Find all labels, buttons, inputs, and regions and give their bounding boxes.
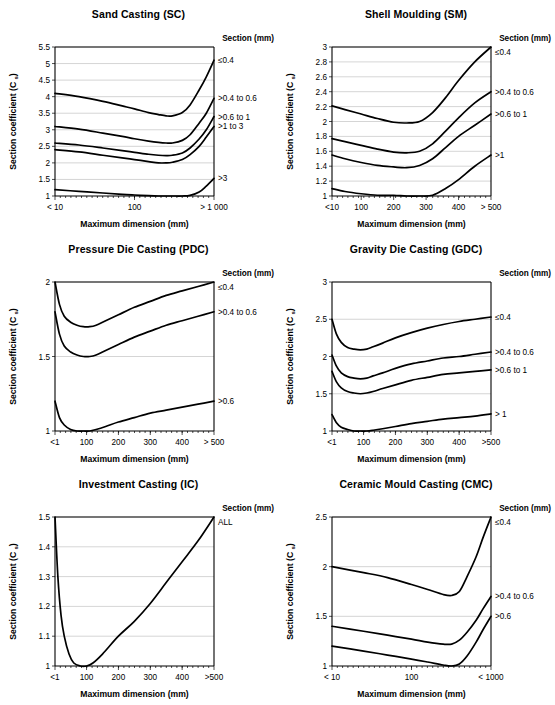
chart-panel-gravity-die-casting: Gravity Die Casting (GDC)11.522.53<11002… [277,235,555,470]
y-axis-title-main: Section coefficient (C [8,314,18,404]
y-axis-title-close: ) [285,73,295,76]
chart-panel-sand-casting: Sand Casting (SC)11.522.533.544.555.5< 1… [0,0,277,235]
y-tick-label: 2.5 [316,315,328,324]
x-tick-label: <10 [325,203,339,212]
y-tick-label: 1.5 [39,175,51,184]
chart-panel-shell-moulding: Shell Moulding (SM)11.21.41.61.822.22.42… [277,0,555,235]
y-axis-title-main: Section coefficient (C [8,549,18,639]
y-tick-label: 5 [45,60,50,69]
curve-gravity-die-casting-series-0 [332,317,491,350]
y-axis-title-main: Section coefficient (C [285,549,295,639]
legend-header: Section (mm) [222,34,274,43]
x-axis-title: Maximum dimension (mm) [80,454,189,464]
legend-label-gravity-die-casting-series-2: >0.6 to 1 [495,366,528,375]
legend-header: Section (mm) [222,504,274,513]
y-tick-label: 1 [45,192,50,201]
x-axis-title: Maximum dimension (mm) [357,454,466,464]
y-tick-label: 2.5 [316,513,328,522]
y-axis-title: Section coefficient (C s) [8,543,19,640]
curve-shell-moulding-series-0 [332,47,491,123]
y-axis-title: Section coefficient (C s) [8,73,19,170]
x-tick-label: 200 [112,673,126,682]
y-tick-label: 1.1 [39,632,51,641]
legend-label-pressure-die-casting-series-0: ≤0.4 [218,283,234,292]
legend-label-ceramic-mould-casting-series-0: ≤0.4 [495,518,511,527]
x-tick-label: 300 [420,438,434,447]
y-axis-title-main: Section coefficient (C [285,314,295,404]
legend-label-sand-casting-series-4: >3 [218,174,228,183]
curve-sand-casting-series-0 [55,60,214,116]
curve-sand-casting-series-2 [55,117,214,156]
x-tick-label: <1 [50,673,60,682]
x-tick-label: 300 [419,203,433,212]
x-tick-label: <1 [50,438,60,447]
x-tick-label: < 1000 [478,673,504,682]
legend-label-gravity-die-casting-series-0: ≤0.4 [495,313,511,322]
y-tick-label: 2 [45,278,50,287]
y-tick-label: 2.6 [316,73,328,82]
y-tick-label: 1.2 [39,602,51,611]
y-tick-label: 1 [45,662,50,671]
x-tick-label: 200 [389,438,403,447]
y-tick-label: 1.5 [39,353,51,362]
y-tick-label: 2 [45,159,50,168]
chart-plot-gravity-die-casting: 11.522.53<1100200300400>500Maximum dimen… [277,235,554,470]
curve-pressure-die-casting-series-1 [55,312,214,357]
legend-label-investment-casting-series-0: ALL [218,518,233,527]
curve-sand-casting-series-4 [55,178,214,196]
chart-plot-ceramic-mould-casting: 11.522.5< 10100< 1000Maximum dimension (… [277,470,554,705]
y-tick-label: 3 [45,126,50,135]
chart-plot-sand-casting: 11.522.533.544.555.5< 10100> 1 000Maximu… [0,0,277,235]
y-tick-label: 1.6 [316,147,328,156]
y-axis-title-close: ) [8,308,18,311]
y-tick-label: 1.8 [316,132,328,141]
legend-label-pressure-die-casting-series-2: >0.6 [218,397,235,406]
legend-label-sand-casting-series-2: >0.6 to 1 [218,113,251,122]
y-tick-label: 1.2 [316,177,328,186]
legend-label-shell-moulding-series-3: >1 [495,151,505,160]
legend-label-shell-moulding-series-1: >0.4 to 0.6 [495,88,534,97]
chart-panel-investment-casting: Investment Casting (IC)11.11.21.31.41.5<… [0,470,277,705]
y-axis-title-main: Section coefficient (C [8,79,18,169]
y-tick-label: 3.5 [39,109,51,118]
x-tick-label: 100 [354,203,368,212]
x-tick-label: 400 [452,203,466,212]
x-tick-label: < 10 [47,203,64,212]
y-tick-label: 1 [322,192,327,201]
y-tick-label: 1 [45,427,50,436]
x-tick-label: < 10 [324,673,341,682]
y-tick-label: 5.5 [39,43,51,52]
chart-plot-shell-moulding: 11.21.41.61.822.22.42.62.83<101002003004… [277,0,554,235]
y-tick-label: 1.4 [316,162,328,171]
x-tick-label: 100 [80,673,94,682]
casting-charts-figure: Sand Casting (SC)11.522.533.544.555.5< 1… [0,0,555,705]
chart-panel-ceramic-mould-casting: Ceramic Mould Casting (CMC)11.522.5< 101… [277,470,555,705]
x-tick-label: > 1 000 [200,203,228,212]
legend-header: Section (mm) [222,269,274,278]
x-tick-label: 100 [405,673,419,682]
x-tick-label: 400 [175,438,189,447]
x-tick-label: >500 [482,438,501,447]
legend-label-sand-casting-series-3: >1 to 3 [218,122,244,131]
legend-label-sand-casting-series-0: ≤0.4 [218,56,234,65]
x-axis-title: Maximum dimension (mm) [357,219,466,229]
legend-label-sand-casting-series-1: >0.4 to 0.6 [218,94,257,103]
legend-label-shell-moulding-series-0: ≤0.4 [495,48,511,57]
y-tick-label: 1.5 [39,513,51,522]
x-tick-label: 200 [387,203,401,212]
x-tick-label: > 500 [481,203,502,212]
y-tick-label: 2 [322,563,327,572]
y-tick-label: 1.4 [39,543,51,552]
legend-header: Section (mm) [499,34,551,43]
legend-label-ceramic-mould-casting-series-1: >0.4 to 0.6 [495,592,534,601]
y-tick-label: 2.5 [39,142,51,151]
y-tick-label: 1 [322,662,327,671]
y-tick-label: 1.5 [316,612,328,621]
y-axis-title-main: Section coefficient (C [285,79,295,169]
x-tick-label: 300 [143,438,157,447]
y-tick-label: 4 [45,93,50,102]
x-tick-label: 400 [175,673,189,682]
y-axis-title-close: ) [8,73,18,76]
curve-pressure-die-casting-series-0 [55,282,214,327]
x-axis-title: Maximum dimension (mm) [80,689,189,699]
